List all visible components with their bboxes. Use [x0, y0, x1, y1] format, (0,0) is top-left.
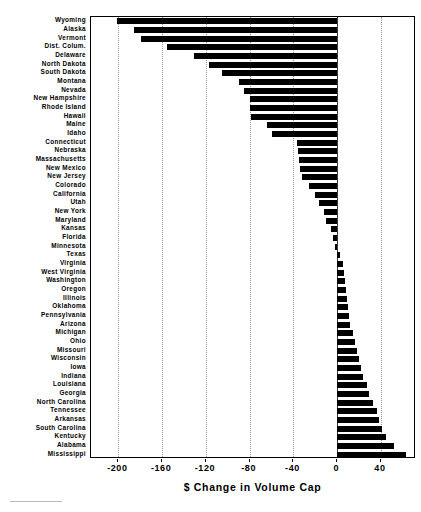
bar	[250, 105, 338, 111]
category-label: Kansas	[0, 224, 86, 232]
category-label: Nevada	[0, 86, 86, 94]
bar	[331, 226, 338, 232]
category-label: South Dakota	[0, 68, 86, 76]
category-label: Missouri	[0, 346, 86, 354]
bar	[209, 62, 337, 68]
bar	[302, 174, 337, 180]
bar	[337, 426, 382, 432]
category-label: Minnesota	[0, 242, 86, 250]
bar-chart: WyomingAlaskaVermontDist. Colum.Delaware…	[0, 0, 421, 512]
plot-area	[90, 16, 415, 458]
bar	[337, 252, 340, 258]
category-label: Hawaii	[0, 112, 86, 120]
category-label: New Jersey	[0, 172, 86, 180]
bar	[337, 322, 350, 328]
x-tick-label: -200	[107, 463, 127, 473]
bar	[324, 209, 337, 215]
category-label: Montana	[0, 77, 86, 85]
category-label: New Hampshire	[0, 94, 86, 102]
bar	[337, 339, 355, 345]
bar	[337, 348, 357, 354]
bar	[337, 261, 342, 267]
bar	[299, 157, 337, 163]
bar	[337, 330, 352, 336]
bar	[337, 278, 345, 284]
bar	[337, 443, 394, 449]
category-axis-labels: WyomingAlaskaVermontDist. Colum.Delaware…	[0, 16, 86, 458]
category-label: Kentucky	[0, 432, 86, 440]
category-label: Virginia	[0, 259, 86, 267]
bar	[337, 313, 349, 319]
bar	[222, 70, 337, 76]
x-tick-label: -120	[195, 463, 215, 473]
bar	[134, 27, 338, 33]
bar	[194, 53, 337, 59]
x-tick-label: -160	[151, 463, 171, 473]
category-label: Oregon	[0, 285, 86, 293]
bar	[239, 79, 337, 85]
category-label: Arizona	[0, 320, 86, 328]
category-label: Tennessee	[0, 406, 86, 414]
x-axis-title: $ Change in Volume Cap	[90, 481, 415, 493]
category-label: Rhode Island	[0, 103, 86, 111]
category-label: Colorado	[0, 181, 86, 189]
bar	[337, 434, 386, 440]
x-tick-mark	[161, 459, 162, 462]
x-tick-label: -40	[285, 463, 300, 473]
category-label: Georgia	[0, 389, 86, 397]
category-label: New Mexico	[0, 164, 86, 172]
bar	[337, 382, 367, 388]
category-label: Oklahoma	[0, 302, 86, 310]
category-label: Massachusetts	[0, 155, 86, 163]
bar	[250, 96, 338, 102]
bar	[337, 374, 363, 380]
bar	[337, 304, 348, 310]
gridline--160	[162, 17, 163, 457]
bar	[337, 365, 361, 371]
bar	[315, 192, 337, 198]
bar	[337, 417, 379, 423]
category-label: Ohio	[0, 337, 86, 345]
category-label: Nebraska	[0, 146, 86, 154]
category-label: Maine	[0, 120, 86, 128]
category-label: Arkansas	[0, 415, 86, 423]
x-tick-mark	[249, 459, 250, 462]
category-label: Alabama	[0, 441, 86, 449]
bar	[309, 183, 337, 189]
category-label: Louisiana	[0, 380, 86, 388]
category-label: Texas	[0, 250, 86, 258]
category-label: Indiana	[0, 372, 86, 380]
category-label: Iowa	[0, 363, 86, 371]
category-label: Michigan	[0, 328, 86, 336]
x-tick-label: 40	[374, 463, 385, 473]
x-tick-label: 0	[333, 463, 339, 473]
footer-rule	[10, 501, 62, 502]
category-label: South Carolina	[0, 424, 86, 432]
bar	[337, 452, 406, 458]
bar	[319, 200, 338, 206]
gridline--120	[206, 17, 207, 457]
bar	[167, 44, 338, 50]
bar	[337, 356, 359, 362]
category-label: Wisconsin	[0, 354, 86, 362]
bar	[298, 148, 337, 154]
bar	[300, 166, 337, 172]
bar	[337, 391, 369, 397]
category-label: Utah	[0, 198, 86, 206]
bar	[141, 36, 337, 42]
category-label: Alaska	[0, 25, 86, 33]
category-label: Wyoming	[0, 16, 86, 24]
bar	[297, 140, 337, 146]
category-label: Connecticut	[0, 138, 86, 146]
bar	[244, 88, 337, 94]
bar	[337, 287, 346, 293]
category-label: North Dakota	[0, 60, 86, 68]
x-tick-label: -80	[241, 463, 256, 473]
bar	[337, 408, 376, 414]
bar	[251, 114, 337, 120]
x-tick-mark	[205, 459, 206, 462]
category-label: California	[0, 190, 86, 198]
category-label: Idaho	[0, 129, 86, 137]
x-tick-mark	[336, 459, 337, 462]
bar	[335, 244, 337, 250]
